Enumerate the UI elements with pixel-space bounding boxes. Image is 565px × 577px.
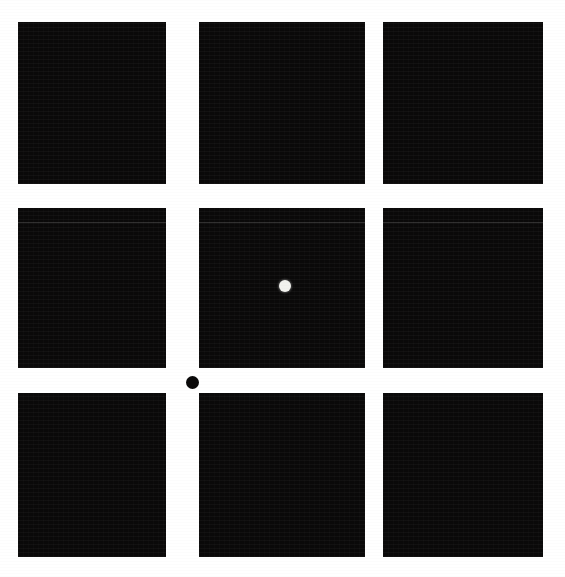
image-panel-r1c2[interactable] xyxy=(199,22,365,184)
panel-grain-texture xyxy=(18,208,166,368)
black-dot-marker xyxy=(186,376,199,389)
panel-grain-texture xyxy=(383,393,543,557)
image-panel-r3c1[interactable] xyxy=(18,393,166,557)
figure-canvas xyxy=(0,0,565,577)
panel-grain-texture xyxy=(383,208,543,368)
image-panel-r2c3[interactable] xyxy=(383,208,543,368)
white-dot-marker xyxy=(279,280,291,292)
image-panel-r2c1[interactable] xyxy=(18,208,166,368)
image-panel-r1c1[interactable] xyxy=(18,22,166,184)
image-panel-r1c3[interactable] xyxy=(383,22,543,184)
panel-grain-texture xyxy=(18,22,166,184)
image-panel-r3c3[interactable] xyxy=(383,393,543,557)
panel-horizontal-band xyxy=(199,222,365,223)
panel-grain-texture xyxy=(383,22,543,184)
panel-horizontal-band xyxy=(383,222,543,223)
panel-grain-texture xyxy=(199,393,365,557)
image-panel-r3c2[interactable] xyxy=(199,393,365,557)
panel-grain-texture xyxy=(18,393,166,557)
panel-grain-texture xyxy=(199,22,365,184)
image-panel-r2c2-center[interactable] xyxy=(199,208,365,368)
panel-horizontal-band xyxy=(18,222,166,223)
